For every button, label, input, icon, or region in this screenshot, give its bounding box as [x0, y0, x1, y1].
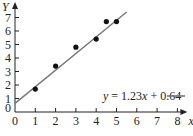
y-tick-label: 3 — [5, 65, 11, 79]
x-tick-label: 0 — [12, 114, 18, 128]
x-tick-label: 7 — [154, 114, 160, 128]
data-point — [33, 86, 38, 91]
y-axis-arrow-icon — [12, 2, 18, 9]
x-tick-label: 5 — [114, 114, 120, 128]
x-tick-label: 3 — [73, 114, 79, 128]
y-tick-label: 2 — [5, 78, 11, 92]
data-point — [53, 64, 58, 69]
scatter-chart: 01234567801234567xY y = 1.23x + 0.64 — [0, 0, 193, 136]
legend: y = 1.23x + 0.64 — [102, 89, 185, 103]
data-point — [104, 19, 109, 24]
axes: 01234567801234567xY — [2, 0, 193, 128]
x-tick-label: 8 — [174, 114, 180, 128]
data-point — [94, 37, 99, 42]
y-tick-label: 5 — [5, 38, 11, 52]
x-axis-arrow-icon — [180, 109, 187, 115]
x-tick-label: 2 — [53, 114, 59, 128]
data-points — [33, 19, 119, 92]
x-tick-label: 1 — [32, 114, 38, 128]
y-tick-label: 1 — [5, 92, 11, 106]
x-axis-label: x — [187, 114, 193, 128]
x-tick-label: 4 — [93, 114, 99, 128]
y-tick-label: 6 — [5, 24, 11, 38]
data-point — [114, 19, 119, 24]
data-point — [73, 45, 78, 50]
x-tick-label: 6 — [134, 114, 140, 128]
y-tick-label: 4 — [5, 51, 11, 65]
